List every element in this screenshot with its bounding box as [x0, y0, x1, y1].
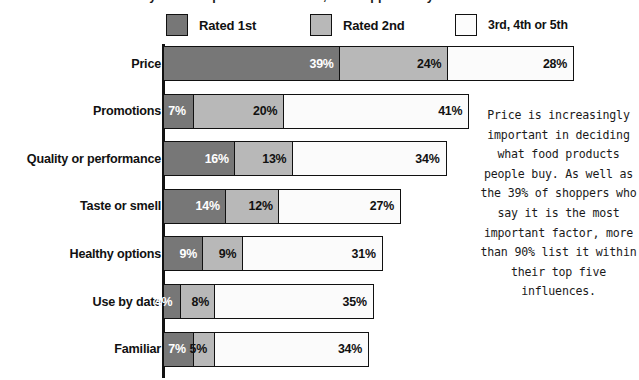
legend-swatch-icon-rated-3rd-4th-5th	[455, 14, 477, 36]
bar-segment-rated-1st[interactable]: 7%	[163, 94, 195, 129]
bar-segment-value: 28%	[543, 57, 573, 71]
legend-swatch-icon-rated-1st	[166, 14, 188, 36]
bar-segment-rated-3rd-4th-5th[interactable]: 34%	[214, 332, 369, 367]
category-label: Quality or performance	[27, 141, 161, 176]
bar-segment-rated-2nd[interactable]: 13%	[234, 141, 293, 176]
bar-segment-rated-2nd[interactable]: 5%	[193, 332, 216, 367]
bar-segment-value: 13%	[262, 152, 292, 166]
legend-item-rated-1st: Rated 1st	[166, 10, 256, 40]
bar-segment-value: 14%	[196, 199, 226, 213]
bar-segment-value: 9%	[179, 247, 203, 261]
bar-segment-value: 16%	[205, 152, 235, 166]
bar-segment-rated-2nd[interactable]: 12%	[225, 189, 280, 224]
bar-segment-rated-1st[interactable]: 9%	[163, 236, 204, 271]
bar-segment-value: 7%	[168, 342, 192, 356]
legend-label-rated-3rd-4th-5th: 3rd, 4th or 5th	[488, 18, 568, 32]
stacked-bar[interactable]: 39%24%28%	[163, 46, 574, 81]
category-label: Healthy options	[70, 236, 161, 271]
bar-segment-value: 27%	[370, 199, 400, 213]
bar-segment-rated-1st[interactable]: 16%	[163, 141, 236, 176]
stacked-bar[interactable]: 14%12%27%	[163, 189, 401, 224]
bar-segment-value: 34%	[338, 342, 368, 356]
stacked-bar[interactable]: 16%13%34%	[163, 141, 447, 176]
bar-row: Price39%24%28%	[0, 46, 639, 81]
category-label: Use by date	[93, 284, 162, 319]
bar-segment-rated-3rd-4th-5th[interactable]: 41%	[283, 94, 470, 129]
bar-segment-rated-2nd[interactable]: 8%	[180, 284, 216, 319]
legend-item-rated-2nd: Rated 2nd	[310, 10, 405, 40]
bar-segment-value: 9%	[219, 247, 243, 261]
bar-segment-value: 24%	[417, 57, 447, 71]
chart-legend: Rated 1st Rated 2nd 3rd, 4th or 5th	[0, 10, 600, 40]
legend-label-rated-2nd: Rated 2nd	[343, 18, 405, 33]
cropped-top-text-line: may not be a permanent feature, as shopp…	[131, 0, 434, 3]
stacked-bar[interactable]: 7%5%34%	[163, 332, 369, 367]
caption-text: Price is increasingly important in decid…	[478, 106, 639, 302]
category-label: Taste or smell	[80, 189, 161, 224]
bar-segment-rated-2nd[interactable]: 9%	[202, 236, 243, 271]
bar-segment-value: 4%	[155, 295, 179, 309]
bar-segment-rated-1st[interactable]: 4%	[163, 284, 181, 319]
bar-segment-value: 41%	[438, 104, 468, 118]
bar-segment-rated-1st[interactable]: 14%	[163, 189, 227, 224]
bar-segment-value: 34%	[415, 152, 445, 166]
bar-segment-rated-2nd[interactable]: 20%	[193, 94, 284, 129]
bar-segment-rated-3rd-4th-5th[interactable]: 27%	[278, 189, 401, 224]
bar-segment-value: 39%	[309, 57, 339, 71]
cropped-top-text: may not be a permanent feature, as shopp…	[0, 0, 639, 7]
bar-segment-value: 8%	[191, 295, 215, 309]
bar-segment-value: 31%	[352, 247, 382, 261]
legend-label-rated-1st: Rated 1st	[199, 18, 256, 33]
category-label: Promotions	[93, 94, 161, 129]
bar-segment-rated-3rd-4th-5th[interactable]: 28%	[447, 46, 575, 81]
bar-segment-value: 35%	[343, 295, 373, 309]
bar-segment-rated-3rd-4th-5th[interactable]: 35%	[214, 284, 373, 319]
stacked-bar[interactable]: 4%8%35%	[163, 284, 374, 319]
stacked-bar[interactable]: 7%20%41%	[163, 94, 469, 129]
bar-segment-rated-2nd[interactable]: 24%	[339, 46, 448, 81]
bar-segment-rated-1st[interactable]: 39%	[163, 46, 341, 81]
bar-segment-value: 12%	[249, 199, 279, 213]
bar-row: Familiar7%5%34%	[0, 332, 639, 367]
category-label: Price	[131, 46, 161, 81]
bar-segment-value: 5%	[189, 342, 213, 356]
category-label: Familiar	[114, 332, 161, 367]
legend-swatch-icon-rated-2nd	[310, 14, 332, 36]
bar-segment-value: 7%	[168, 104, 192, 118]
bar-segment-rated-3rd-4th-5th[interactable]: 31%	[242, 236, 383, 271]
stacked-bar[interactable]: 9%9%31%	[163, 236, 383, 271]
legend-item-rated-3rd-4th-5th: 3rd, 4th or 5th	[455, 10, 568, 40]
bar-segment-value: 20%	[253, 104, 283, 118]
bar-segment-rated-3rd-4th-5th[interactable]: 34%	[292, 141, 447, 176]
